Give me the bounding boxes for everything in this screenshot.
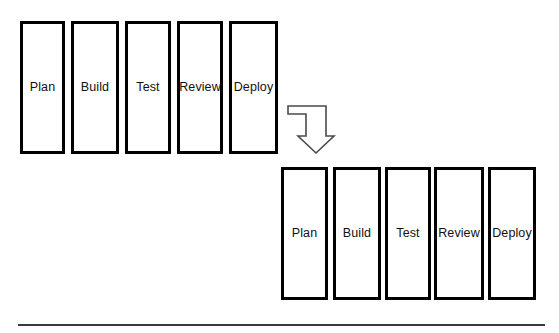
stage-box-deploy-top[interactable]: Deploy xyxy=(229,21,278,154)
stage-label: Test xyxy=(136,81,159,94)
stage-label: Review xyxy=(438,227,480,240)
stage-label: Plan xyxy=(292,227,317,240)
diagram-canvas: Plan Build Test Review Deploy Plan Build… xyxy=(0,0,559,333)
stage-box-test-top[interactable]: Test xyxy=(125,21,171,154)
arrow-elbow-down-icon xyxy=(286,102,340,156)
stage-box-plan-bottom[interactable]: Plan xyxy=(281,167,328,300)
stage-box-test-bottom[interactable]: Test xyxy=(385,167,431,300)
stage-label: Deploy xyxy=(492,227,532,240)
stage-box-build-bottom[interactable]: Build xyxy=(333,167,381,300)
stage-box-build-top[interactable]: Build xyxy=(71,21,119,154)
stage-label: Build xyxy=(81,81,109,94)
stage-box-plan-top[interactable]: Plan xyxy=(20,21,65,154)
stage-label: Test xyxy=(396,227,419,240)
stage-box-deploy-bottom[interactable]: Deploy xyxy=(488,167,536,300)
stage-box-review-top[interactable]: Review xyxy=(177,21,223,154)
stage-box-review-bottom[interactable]: Review xyxy=(434,167,484,300)
stage-label: Review xyxy=(179,81,221,94)
stage-label: Build xyxy=(343,227,371,240)
stage-label: Deploy xyxy=(234,81,274,94)
horizontal-divider xyxy=(18,324,545,326)
stage-label: Plan xyxy=(30,81,55,94)
